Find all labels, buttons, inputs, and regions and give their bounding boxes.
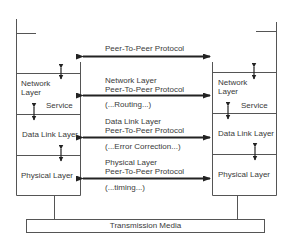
physical-protocol-label: Physical Layer Peer-To-Peer Protocol	[105, 158, 184, 176]
data-link-protocol-note: (...Error Correction...)	[105, 142, 181, 151]
physical-protocol-note: (...timing...)	[105, 183, 145, 192]
data-link-protocol-label: Data Link Layer Peer-To-Peer Protocol	[105, 117, 184, 135]
left-network-layer-label: Network Layer	[21, 79, 50, 97]
label-line: Peer-To-Peer Protocol	[105, 85, 184, 94]
network-protocol-label: Network Layer Peer-To-Peer Protocol	[105, 76, 184, 94]
right-network-layer-label: Network Layer	[218, 78, 247, 96]
label-line: Peer-To-Peer Protocol	[105, 167, 184, 176]
left-physical-layer-label: Physical Layer	[21, 171, 73, 180]
left-service-label: Service	[46, 101, 73, 110]
network-protocol-note: (...Routing...)	[105, 100, 151, 109]
label-line: Data Link Layer	[105, 117, 184, 126]
label-line: Physical Layer	[105, 158, 184, 167]
peer-protocol-top-label: Peer-To-Peer Protocol	[105, 44, 184, 53]
label-line: Layer	[21, 88, 50, 97]
right-physical-layer-label: Physical Layer	[218, 170, 270, 179]
left-data-link-layer-label: Data Link Layer	[22, 130, 78, 139]
label-line: Network	[21, 79, 50, 88]
label-line: Layer	[218, 87, 247, 96]
label-line: Network	[218, 78, 247, 87]
right-service-label: Service	[241, 101, 268, 110]
right-data-link-layer-label: Data Link Layer	[218, 129, 274, 138]
label-line: Peer-To-Peer Protocol	[105, 126, 184, 135]
transmission-media-label: Transmission Media	[26, 221, 265, 230]
left-stack-frame	[17, 19, 81, 219]
label-line: Network Layer	[105, 76, 184, 85]
right-stack-frame	[213, 22, 277, 219]
osi-diagram: Network Layer Service Data Link Layer Ph…	[0, 0, 291, 244]
